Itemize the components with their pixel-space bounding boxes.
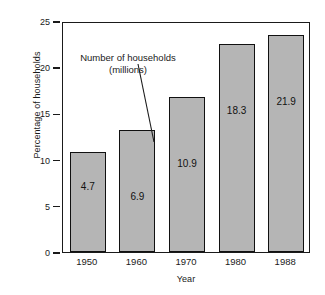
- y-axis-tick-label: 5: [10, 201, 50, 213]
- bar-value-label: 21.9: [269, 96, 303, 107]
- bar: 10.9: [169, 97, 205, 252]
- bar: 18.3: [219, 44, 255, 252]
- x-axis-tick-label: 1988: [260, 256, 310, 267]
- y-axis-tick: 15: [0, 108, 62, 120]
- y-axis-tick: 20: [0, 62, 62, 74]
- y-axis-tick-label: 20: [10, 62, 50, 74]
- y-axis-tick-mark: [53, 206, 60, 207]
- y-axis-tick-mark: [53, 160, 60, 161]
- bar-value-label: 4.7: [71, 181, 105, 192]
- y-axis-tick-label: 10: [10, 155, 50, 167]
- chart-annotation: Number of households (millions): [62, 52, 194, 76]
- y-axis-tick-label: 25: [10, 16, 50, 28]
- bar: 6.9: [119, 130, 155, 252]
- bar-value-label: 18.3: [220, 105, 254, 116]
- y-axis-tick-label: 0: [10, 247, 50, 259]
- x-axis-label: Year: [62, 274, 310, 284]
- y-axis-tick: 25: [0, 16, 62, 28]
- y-axis-tick: 0: [0, 247, 62, 259]
- x-axis-tick-label: 1960: [111, 256, 161, 267]
- y-axis-tick-mark: [53, 252, 60, 253]
- bar-chart-figure: Percentage of households 0510152025 4.76…: [0, 0, 325, 295]
- bar: 4.7: [70, 152, 106, 252]
- y-axis-tick-mark: [53, 114, 60, 115]
- x-axis-tick-label: 1980: [211, 256, 261, 267]
- y-axis-tick: 5: [0, 201, 62, 213]
- x-axis-tick-label: 1950: [62, 256, 112, 267]
- y-axis-tick: 10: [0, 155, 62, 167]
- annotation-line-2: (millions): [62, 64, 194, 76]
- bar-value-label: 6.9: [120, 191, 154, 202]
- y-axis-tick-mark: [53, 21, 60, 22]
- y-axis-tick-label: 15: [10, 108, 50, 120]
- y-axis-tick-mark: [53, 67, 60, 68]
- bar-value-label: 10.9: [170, 158, 204, 169]
- y-axis-label: Percentage of households: [32, 5, 42, 205]
- annotation-line-1: Number of households: [80, 52, 176, 63]
- x-axis-tick-label: 1970: [161, 256, 211, 267]
- bar: 21.9: [268, 35, 304, 252]
